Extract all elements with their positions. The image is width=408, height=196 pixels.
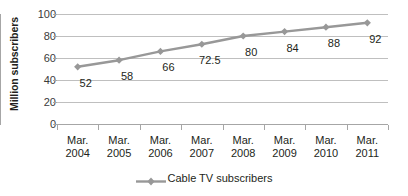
- data-label-2005: 58: [121, 71, 133, 82]
- x-axis-label-year: 2005: [96, 147, 142, 160]
- x-tick-mark: [305, 125, 306, 130]
- data-label-2011: 92: [369, 34, 381, 45]
- data-label-2009: 84: [286, 43, 298, 54]
- y-tick-label-100: 100: [26, 9, 56, 20]
- x-axis-label-2008: Mar.2008: [220, 134, 266, 160]
- x-axis-label-2010: Mar.2010: [303, 134, 349, 160]
- x-axis-label-year: 2010: [303, 147, 349, 160]
- x-tick-mark: [140, 125, 141, 130]
- data-point-marker: [281, 28, 288, 35]
- data-point-marker: [240, 32, 247, 39]
- line-chart: Million subscribers 100 80 60 40 20 0 52…: [0, 0, 408, 196]
- data-point-marker: [364, 19, 371, 26]
- x-tick-mark: [264, 125, 265, 130]
- x-axis-label-month: Mar.: [137, 134, 183, 147]
- y-tick-label-60: 60: [26, 53, 56, 64]
- series-cable-tv-subscribers: [57, 14, 388, 124]
- x-axis-label-month: Mar.: [96, 134, 142, 147]
- x-tick-mark: [347, 125, 348, 130]
- x-axis-label-year: 2006: [137, 147, 183, 160]
- x-tick-mark: [388, 125, 389, 130]
- x-axis-label-year: 2007: [179, 147, 225, 160]
- x-tick-mark: [98, 125, 99, 130]
- legend-label-cable-tv-subscribers: Cable TV subscribers: [168, 172, 273, 184]
- data-label-2004: 52: [80, 78, 92, 89]
- y-axis-title: Million subscribers: [8, 4, 20, 124]
- x-axis-label-month: Mar.: [344, 134, 390, 147]
- x-axis-label-month: Mar.: [55, 134, 101, 147]
- x-axis-label-month: Mar.: [303, 134, 349, 147]
- legend: Cable TV subscribers: [0, 172, 408, 184]
- y-tick-label-0: 0: [26, 119, 56, 130]
- x-axis-label-month: Mar.: [262, 134, 308, 147]
- x-axis-label-2006: Mar.2006: [137, 134, 183, 160]
- data-point-marker: [198, 41, 205, 48]
- x-axis-label-year: 2008: [220, 147, 266, 160]
- y-tick-label-80: 80: [26, 31, 56, 42]
- x-axis-label-2009: Mar.2009: [262, 134, 308, 160]
- y-axis-line: [0, 14, 1, 125]
- y-tick-label-20: 20: [26, 97, 56, 108]
- x-axis-label-year: 2011: [344, 147, 390, 160]
- x-axis-label-year: 2009: [262, 147, 308, 160]
- x-tick-mark: [223, 125, 224, 130]
- x-axis-label-2004: Mar.2004: [55, 134, 101, 160]
- data-label-2007: 72.5: [199, 55, 220, 66]
- data-point-marker: [74, 63, 81, 70]
- data-label-2006: 66: [162, 62, 174, 73]
- data-point-marker: [115, 57, 122, 64]
- series-markers: [74, 19, 371, 70]
- x-tick-mark: [181, 125, 182, 130]
- x-tick-mark: [57, 125, 58, 130]
- data-label-2008: 80: [245, 47, 257, 58]
- x-axis-label-month: Mar.: [220, 134, 266, 147]
- data-label-2010: 88: [328, 38, 340, 49]
- x-axis-label-2011: Mar.2011: [344, 134, 390, 160]
- legend-marker-icon: [136, 173, 166, 184]
- plot-area: [57, 14, 388, 124]
- x-axis-label-month: Mar.: [179, 134, 225, 147]
- y-tick-label-40: 40: [26, 75, 56, 86]
- x-axis-label-year: 2004: [55, 147, 101, 160]
- data-point-marker: [157, 48, 164, 55]
- x-axis-label-2005: Mar.2005: [96, 134, 142, 160]
- data-point-marker: [322, 24, 329, 31]
- x-axis-label-2007: Mar.2007: [179, 134, 225, 160]
